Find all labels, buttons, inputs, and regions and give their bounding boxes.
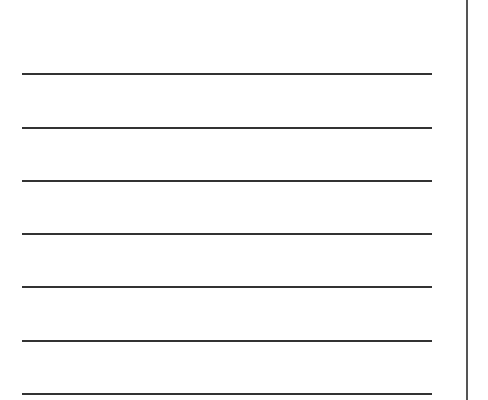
ruled-line — [22, 180, 432, 182]
ruled-line — [22, 286, 432, 288]
ruled-line — [22, 233, 432, 235]
ruled-line — [22, 127, 432, 129]
lined-sheet — [0, 0, 488, 400]
right-margin-line — [466, 0, 468, 400]
ruled-line — [22, 340, 432, 342]
ruled-line — [22, 73, 432, 75]
ruled-line — [22, 393, 432, 395]
